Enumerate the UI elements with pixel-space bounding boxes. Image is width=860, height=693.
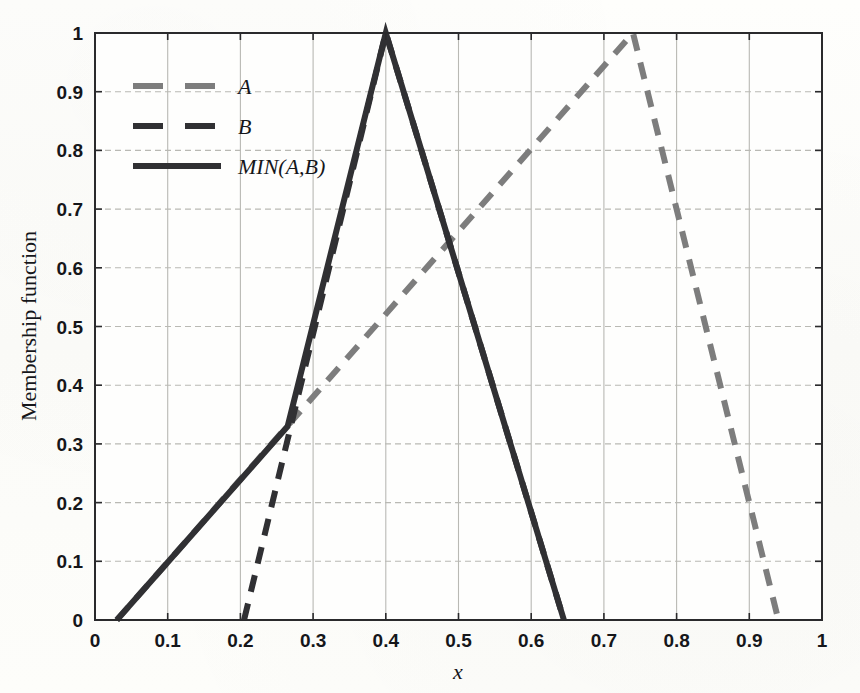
x-tick-label: 0.2 [227, 630, 253, 651]
x-tick-label: 0.3 [300, 630, 326, 651]
x-tick-label: 0.5 [445, 630, 472, 651]
legend-label-minab: MIN(A,B) [237, 154, 325, 179]
y-tick-label: 0.7 [57, 199, 83, 220]
y-tick-label: 0 [72, 610, 83, 631]
y-tick-label: 0.5 [57, 317, 84, 338]
legend-label-a: A [236, 74, 252, 99]
y-tick-label: 1 [72, 23, 83, 44]
y-tick-label: 0.4 [57, 375, 84, 396]
y-tick-label: 0.9 [57, 82, 83, 103]
x-tick-label: 0 [90, 630, 101, 651]
x-tick-label: 0.4 [373, 630, 400, 651]
y-tick-label: 0.2 [57, 493, 83, 514]
x-tick-label: 0.1 [154, 630, 181, 651]
x-tick-label: 0.6 [518, 630, 544, 651]
membership-function-chart: 00.10.20.30.40.50.60.70.80.91 00.10.20.3… [0, 0, 860, 693]
x-tick-label: 1 [817, 630, 828, 651]
y-tick-label: 0.1 [57, 551, 84, 572]
x-tick-label: 0.9 [736, 630, 762, 651]
x-tick-label: 0.7 [591, 630, 617, 651]
y-axis-title: Membership function [16, 231, 41, 421]
y-tick-label: 0.6 [57, 258, 83, 279]
y-tick-labels: 00.10.20.30.40.50.60.70.80.91 [57, 23, 84, 631]
y-tick-label: 0.3 [57, 434, 83, 455]
x-tick-labels: 00.10.20.30.40.50.60.70.80.91 [90, 630, 828, 651]
y-tick-label: 0.8 [57, 140, 83, 161]
legend-label-b: B [238, 114, 251, 139]
x-tick-label: 0.8 [663, 630, 689, 651]
x-axis-title: x [452, 659, 463, 684]
chart-page: 00.10.20.30.40.50.60.70.80.91 00.10.20.3… [0, 0, 860, 693]
